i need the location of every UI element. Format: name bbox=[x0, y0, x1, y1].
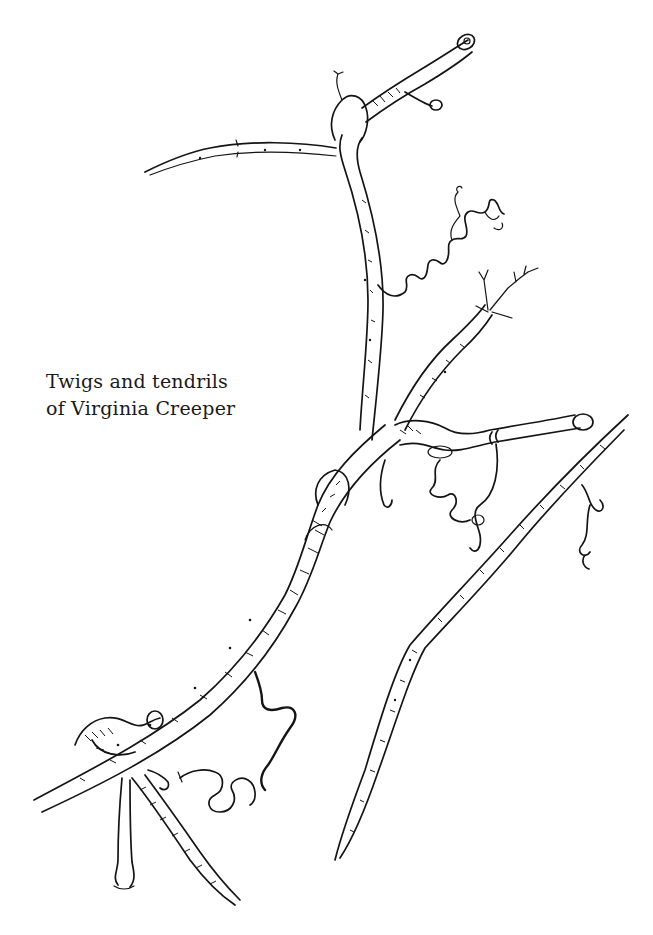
caption: Twigs and tendrils of Virginia Creeper bbox=[46, 368, 235, 422]
tendril-lower bbox=[178, 672, 295, 812]
right-spur bbox=[395, 414, 593, 458]
caption-line-2: of Virginia Creeper bbox=[46, 395, 235, 422]
middle-branch bbox=[395, 266, 538, 430]
main-branch bbox=[34, 425, 400, 812]
tendril-upper bbox=[378, 186, 504, 296]
caption-line-1: Twigs and tendrils bbox=[46, 368, 235, 395]
virginia-creeper-drawing bbox=[0, 0, 653, 935]
lower-knot bbox=[75, 711, 240, 905]
right-twig bbox=[335, 415, 628, 860]
tendril-middle bbox=[380, 444, 497, 551]
bark-texture bbox=[117, 279, 447, 747]
illustration-page: Twigs and tendrils of Virginia Creeper bbox=[0, 0, 653, 935]
